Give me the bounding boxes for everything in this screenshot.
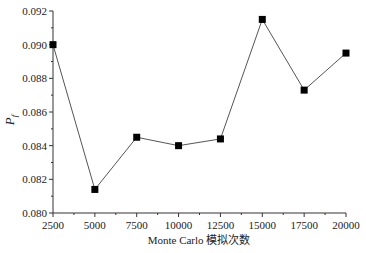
x-tick-label: 10000	[165, 219, 193, 231]
y-tick-label: 0.084	[22, 140, 47, 152]
y-axis-title: Pf	[2, 113, 19, 126]
x-tick-label: 20000	[332, 219, 360, 231]
y-tick-label: 0.086	[22, 106, 47, 118]
y-tick-label: 0.082	[22, 173, 47, 185]
y-tick-label: 0.090	[22, 39, 47, 51]
data-point-marker	[343, 50, 350, 57]
x-tick-label: 2500	[42, 219, 65, 231]
data-point-marker	[301, 87, 308, 94]
x-tick-label: 12500	[207, 219, 235, 231]
data-point-marker	[259, 16, 266, 23]
x-tick-label: 17500	[290, 219, 318, 231]
data-point-marker	[50, 41, 57, 48]
x-tick-label: 7500	[126, 219, 149, 231]
data-point-marker	[175, 142, 182, 149]
line-chart: 0.0800.0820.0840.0860.0880.0900.09225005…	[0, 0, 366, 253]
data-point-marker	[133, 134, 140, 141]
y-tick-label: 0.080	[22, 207, 47, 219]
y-tick-label: 0.092	[22, 5, 47, 17]
data-series	[50, 16, 350, 193]
y-tick-label: 0.088	[22, 72, 47, 84]
x-tick-label: 15000	[249, 219, 277, 231]
data-point-marker	[217, 135, 224, 142]
x-axis-title: Monte Carlo 模拟次数	[148, 233, 251, 246]
axes: 0.0800.0820.0840.0860.0880.0900.09225005…	[22, 5, 360, 231]
series-line	[53, 19, 346, 189]
data-point-marker	[91, 186, 98, 193]
x-tick-label: 5000	[84, 219, 107, 231]
